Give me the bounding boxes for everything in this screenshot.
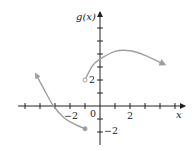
y-axis bbox=[97, 12, 103, 145]
x-tick-label-neg2: −2 bbox=[64, 110, 78, 121]
y-tick-label-2: 2 bbox=[89, 74, 95, 85]
origin-label: 0 bbox=[90, 108, 96, 119]
right-piece-curve bbox=[85, 50, 165, 80]
x-axis-label: x bbox=[176, 109, 182, 120]
y-axis-label: g(x) bbox=[76, 11, 96, 22]
closed-endpoint-icon bbox=[83, 127, 87, 131]
open-endpoint-icon bbox=[83, 78, 87, 82]
y-tick-label-neg2: −2 bbox=[104, 125, 118, 136]
x-tick-label-2: 2 bbox=[127, 110, 133, 121]
x-axis bbox=[18, 103, 185, 109]
function-graph: g(x) x 0 −2 2 2 −2 bbox=[0, 0, 194, 151]
